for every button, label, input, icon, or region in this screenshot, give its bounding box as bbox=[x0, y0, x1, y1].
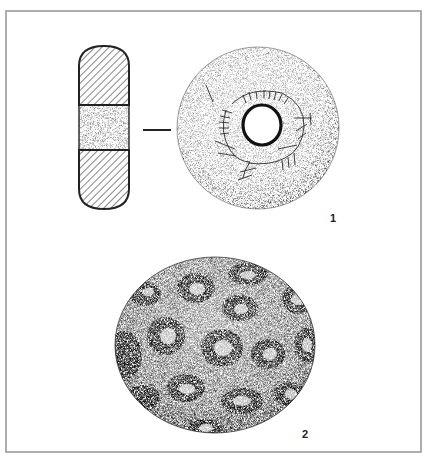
figure-1-section bbox=[79, 46, 129, 209]
figure-1-label: 1 bbox=[330, 213, 336, 224]
figure-2-stone bbox=[106, 257, 320, 437]
figure-1-disc bbox=[177, 47, 339, 209]
section-middle-stippled bbox=[79, 105, 129, 150]
section-top-hatched bbox=[79, 46, 129, 105]
figure-2-label: 2 bbox=[302, 429, 308, 440]
disc-hole bbox=[243, 105, 281, 145]
section-bottom-hatched bbox=[79, 150, 129, 209]
plate-drawing bbox=[0, 0, 426, 457]
